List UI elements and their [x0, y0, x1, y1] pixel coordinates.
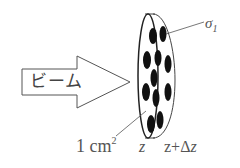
z-position-label: z	[139, 139, 145, 155]
area-text: 1 cm	[76, 136, 112, 156]
beam-label: ビーム	[30, 73, 83, 90]
cross-section-label: σ1	[205, 16, 217, 34]
area-label: 1 cm2	[76, 136, 117, 155]
z-plus-dz-prefix: z+Δ	[164, 138, 190, 155]
sigma-leader-line	[166, 22, 204, 34]
area-exponent: 2	[112, 135, 117, 146]
sigma-subscript: 1	[212, 23, 217, 34]
beam-target-diagram: ビーム σ1 1 cm2 z z+Δz	[0, 0, 240, 168]
z-plus-dz-var: z	[190, 138, 196, 155]
z-plus-dz-label: z+Δz	[164, 139, 197, 155]
